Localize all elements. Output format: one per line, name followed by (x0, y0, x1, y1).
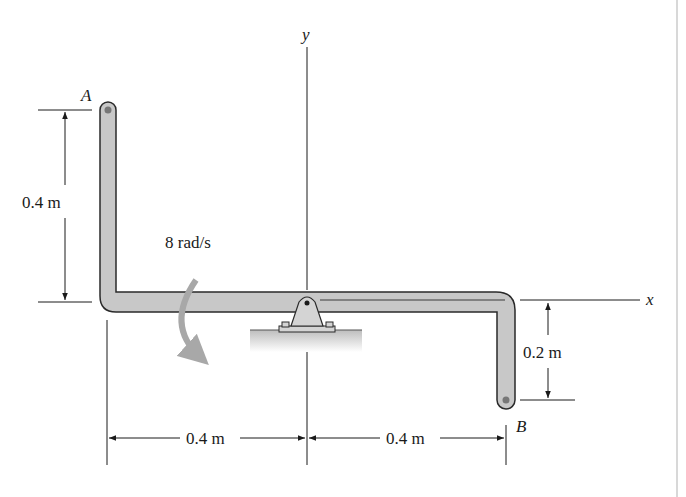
y-axis-label: y (300, 25, 310, 44)
dimension-vertical-B: 0.2 m (520, 303, 575, 400)
rod-diagram: 8 rad/s A B y x 0.4 m 0.2 m 0.4 m 0.4 m (0, 0, 686, 497)
dimension-vertical-A: 0.4 m (22, 110, 92, 302)
point-A-label: A (80, 86, 92, 105)
angular-velocity-label: 8 rad/s (165, 233, 211, 252)
x-axis-label: x (645, 290, 654, 309)
dimension-horizontal-right: 0.4 m (309, 425, 506, 465)
svg-text:0.4 m: 0.4 m (386, 429, 425, 448)
ground-hatch (250, 330, 362, 352)
svg-text:0.4 m: 0.4 m (186, 429, 225, 448)
svg-text:0.2 m: 0.2 m (523, 343, 562, 362)
point-B-label: B (516, 417, 527, 436)
pin-B-icon (503, 397, 510, 404)
pin-A-icon (105, 107, 112, 114)
svg-text:0.4 m: 0.4 m (22, 193, 61, 212)
